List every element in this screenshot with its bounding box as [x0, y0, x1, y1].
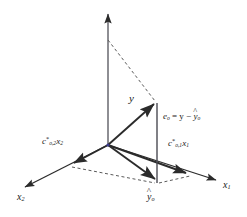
- label-axis-x1: x1: [223, 180, 231, 191]
- origin-point: [106, 143, 109, 146]
- label-projection-yhat: ^yo: [147, 192, 155, 203]
- hat-accent-error: ^: [193, 108, 197, 116]
- label-component-x2: c*o,2x2: [42, 136, 63, 146]
- vector-projection-figure: y x1 x2 ^yo eo = y − ^yo c*o,1x1 c*o,2x2: [0, 0, 247, 217]
- figure-background: [0, 0, 247, 217]
- label-error-equation: eo = y − ^yo: [163, 112, 200, 122]
- label-component-x1: c*o,1x1: [168, 138, 189, 148]
- label-axis-x2: x2: [17, 192, 25, 203]
- hat-accent: ^: [147, 187, 151, 196]
- label-vector-y: y: [129, 93, 134, 104]
- diagram-canvas: [0, 0, 247, 217]
